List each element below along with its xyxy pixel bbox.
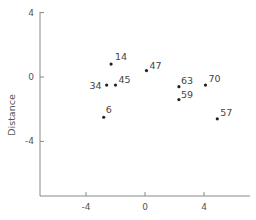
data-point: 63 [177, 75, 193, 89]
x-tick-label: -4 [82, 202, 91, 212]
data-point: 59 [177, 89, 193, 102]
data-point: 57 [216, 107, 233, 121]
data-points: 14344564763597057 [90, 51, 233, 120]
point-label: 47 [149, 60, 161, 71]
axes: 40-4-404 [25, 8, 250, 212]
x-tick-label: 0 [142, 202, 148, 212]
data-point: 70 [204, 73, 221, 87]
point-label: 70 [208, 73, 220, 84]
point-marker [114, 83, 117, 86]
data-point: 14 [109, 51, 127, 66]
y-tick-label: -4 [25, 136, 34, 146]
point-label: 57 [220, 107, 232, 118]
point-marker [204, 83, 207, 86]
scatter-chart: 40-4-404 14344564763597057 Distance [0, 0, 256, 220]
data-point: 47 [145, 60, 162, 73]
point-label: 34 [90, 80, 102, 91]
data-point: 45 [114, 74, 131, 87]
point-marker [102, 116, 105, 119]
y-tick-label: 4 [28, 8, 34, 18]
data-point: 34 [90, 80, 109, 91]
point-label: 6 [106, 104, 112, 115]
point-label: 59 [181, 89, 193, 100]
point-marker [105, 83, 108, 86]
point-label: 14 [115, 51, 127, 62]
y-axis-title: Distance [6, 94, 17, 136]
point-label: 63 [181, 75, 193, 86]
point-marker [145, 69, 148, 72]
point-label: 45 [119, 74, 131, 85]
point-marker [216, 117, 219, 120]
point-marker [109, 63, 112, 66]
x-tick-label: 4 [201, 202, 207, 212]
data-point: 6 [102, 104, 112, 119]
y-tick-label: 0 [28, 72, 34, 82]
